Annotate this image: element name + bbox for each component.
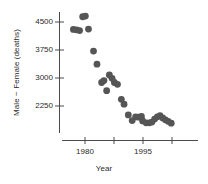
y-axis-tick-label: 3000 [20,73,53,82]
data-point [76,27,83,34]
data-point [101,77,108,84]
x-axis-title: Year [0,164,208,173]
y-axis-tick-label: 4500 [20,17,53,26]
x-axis-tick-label: 1995 [123,147,163,156]
data-point [103,87,110,94]
y-axis-title: Male − Female (deaths) [12,19,21,127]
data-point [94,61,101,68]
data-point [168,120,175,127]
y-axis-tick-label: 3750 [20,45,53,54]
data-point [85,26,92,33]
chart-svg [0,0,208,184]
data-point [121,101,128,108]
plot-area [0,0,208,184]
x-axis-tick-label: 1980 [65,147,105,156]
data-point-group [70,13,175,127]
data-point [125,112,132,119]
y-axis-tick-label: 2250 [20,101,53,110]
data-point [82,13,89,20]
scatter-chart-figure: 2250300037504500 19801995 Male − Female … [0,0,208,184]
data-point [90,48,97,55]
data-point [114,81,121,88]
